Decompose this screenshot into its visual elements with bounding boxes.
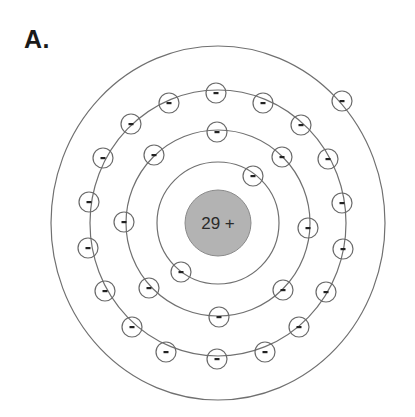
minus-sign-icon xyxy=(167,102,172,104)
minus-sign-icon xyxy=(164,351,169,353)
electron xyxy=(298,218,318,238)
electron xyxy=(316,282,336,302)
minus-sign-icon xyxy=(299,124,304,126)
minus-sign-icon xyxy=(103,290,108,292)
minus-sign-icon xyxy=(306,227,311,229)
electron xyxy=(121,114,141,134)
electron xyxy=(243,166,263,186)
minus-sign-icon xyxy=(251,175,256,177)
bohr-model-diagram: 29 + xyxy=(0,0,415,417)
electron xyxy=(318,149,338,169)
electron xyxy=(78,238,98,258)
electron xyxy=(122,317,142,337)
electron xyxy=(291,115,311,135)
electron xyxy=(333,239,353,259)
minus-sign-icon xyxy=(326,158,331,160)
electron xyxy=(272,147,292,167)
electron xyxy=(289,317,309,337)
minus-sign-icon xyxy=(122,221,127,223)
electron xyxy=(79,192,99,212)
electron xyxy=(171,262,191,282)
minus-sign-icon xyxy=(179,271,184,273)
nucleus: 29 + xyxy=(185,190,251,256)
electron xyxy=(206,83,226,103)
minus-sign-icon xyxy=(130,326,135,328)
electron xyxy=(95,281,115,301)
minus-sign-icon xyxy=(261,102,266,104)
minus-sign-icon xyxy=(263,351,268,353)
electron xyxy=(144,145,164,165)
minus-sign-icon xyxy=(152,154,157,156)
electron xyxy=(332,91,352,111)
electron xyxy=(209,307,229,327)
electron xyxy=(207,122,227,142)
electron xyxy=(139,278,159,298)
minus-sign-icon xyxy=(297,326,302,328)
minus-sign-icon xyxy=(86,247,91,249)
minus-sign-icon xyxy=(324,291,329,293)
minus-sign-icon xyxy=(281,289,286,291)
minus-sign-icon xyxy=(215,131,220,133)
electron xyxy=(255,342,275,362)
electron xyxy=(156,342,176,362)
electron xyxy=(273,280,293,300)
minus-sign-icon xyxy=(340,202,345,204)
minus-sign-icon xyxy=(147,287,152,289)
electron xyxy=(159,93,179,113)
minus-sign-icon xyxy=(341,248,346,250)
minus-sign-icon xyxy=(101,157,106,159)
electron xyxy=(207,349,227,369)
minus-sign-icon xyxy=(215,358,220,360)
minus-sign-icon xyxy=(214,92,219,94)
minus-sign-icon xyxy=(280,156,285,158)
electron xyxy=(93,148,113,168)
electron xyxy=(332,193,352,213)
minus-sign-icon xyxy=(129,123,134,125)
minus-sign-icon xyxy=(217,316,222,318)
minus-sign-icon xyxy=(340,100,345,102)
electron xyxy=(253,93,273,113)
nucleus-charge-label: 29 + xyxy=(201,214,235,233)
minus-sign-icon xyxy=(87,201,92,203)
electron xyxy=(114,212,134,232)
